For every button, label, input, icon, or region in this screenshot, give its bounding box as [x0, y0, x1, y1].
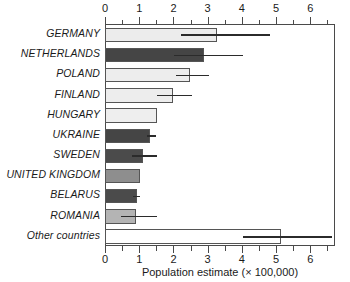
axis-tick-label: 5	[266, 2, 286, 14]
error-bar	[133, 196, 140, 197]
category-label: FINLAND	[54, 85, 100, 105]
axis-tick-major	[310, 246, 311, 253]
bottom-axis	[105, 246, 335, 253]
axis-tick-major	[208, 246, 209, 253]
bar	[105, 129, 150, 143]
bar-row	[106, 207, 334, 227]
category-label: NETHERLANDS	[21, 44, 100, 64]
category-label: UNITED KINGDOM	[6, 165, 100, 185]
axis-tick-label: 2	[163, 253, 183, 265]
axis-tick-major	[208, 17, 209, 24]
axis-tick-major	[310, 17, 311, 24]
axis-tick-label: 0	[95, 2, 115, 14]
axis-tick-minor	[327, 246, 328, 251]
axis-tick-major	[242, 17, 243, 24]
category-labels: GERMANYNETHERLANDSPOLANDFINLANDHUNGARYUK…	[0, 24, 103, 246]
axis-tick-minor	[191, 246, 192, 251]
axis-tick-major	[242, 246, 243, 253]
axis-tick-minor	[293, 246, 294, 251]
axis-tick-label: 3	[198, 253, 218, 265]
error-bar	[147, 135, 156, 136]
top-axis	[105, 17, 335, 24]
bar-row	[106, 45, 334, 65]
plot-area	[105, 24, 335, 246]
top-axis-tick-labels: 0123456	[105, 2, 335, 16]
error-bar	[181, 34, 270, 35]
bar	[105, 189, 137, 203]
error-bar	[121, 216, 157, 217]
bar-row	[106, 86, 334, 106]
axis-tick-minor	[225, 246, 226, 251]
error-bar	[176, 75, 209, 76]
axis-tick-label: 1	[129, 253, 149, 265]
axis-tick-major	[173, 17, 174, 24]
bar-row	[106, 106, 334, 126]
category-label: ROMANIA	[50, 206, 100, 226]
axis-tick-minor	[122, 246, 123, 251]
bar-row	[106, 146, 334, 166]
bar-row	[106, 166, 334, 186]
category-label: UKRAINE	[53, 125, 100, 145]
bar-row	[106, 186, 334, 206]
axis-tick-major	[276, 246, 277, 253]
error-bar	[132, 155, 158, 156]
axis-tick-label: 4	[232, 2, 252, 14]
bottom-axis-tick-labels: 0123456	[105, 253, 335, 267]
axis-tick-major	[139, 17, 140, 24]
axis-tick-major	[105, 17, 106, 24]
bar	[105, 169, 140, 183]
bar-row	[106, 227, 334, 247]
bar-row	[106, 126, 334, 146]
axis-tick-label: 0	[95, 253, 115, 265]
x-axis-title: Population estimate (× 100,000)	[105, 266, 335, 278]
bar	[105, 108, 157, 122]
axis-tick-major	[105, 246, 106, 253]
axis-tick-minor	[259, 246, 260, 251]
axis-tick-label: 2	[163, 2, 183, 14]
error-bar	[243, 236, 332, 237]
axis-tick-major	[173, 246, 174, 253]
bar-row	[106, 65, 334, 85]
category-label: Other countries	[27, 226, 100, 246]
axis-tick-label: 5	[266, 253, 286, 265]
axis-tick-label: 6	[300, 2, 320, 14]
category-label: BELARUS	[50, 185, 100, 205]
bar-row	[106, 25, 334, 45]
error-bar	[157, 95, 191, 96]
error-bar	[174, 55, 242, 56]
category-label: GERMANY	[46, 24, 100, 44]
axis-tick-major	[276, 17, 277, 24]
axis-tick-label: 4	[232, 253, 252, 265]
axis-tick-label: 3	[198, 2, 218, 14]
axis-tick-major	[139, 246, 140, 253]
category-label: POLAND	[56, 64, 100, 84]
axis-tick-label: 6	[300, 253, 320, 265]
axis-tick-minor	[156, 246, 157, 251]
population-estimate-bar-chart: 0123456 GERMANYNETHERLANDSPOLANDFINLANDH…	[0, 0, 350, 282]
category-label: SWEDEN	[53, 145, 100, 165]
axis-tick-label: 1	[129, 2, 149, 14]
category-label: HUNGARY	[47, 105, 100, 125]
